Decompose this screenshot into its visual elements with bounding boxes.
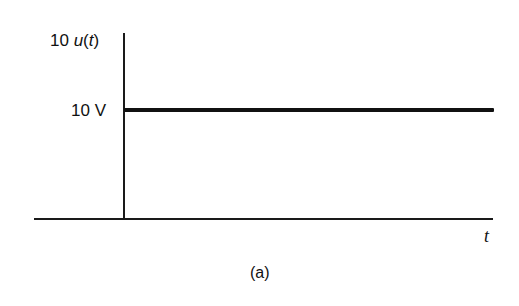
x-axis: [34, 218, 493, 220]
figure-caption: (a): [250, 264, 270, 282]
y-axis-label: 10 u(t): [50, 31, 99, 51]
x-axis-label: t: [484, 226, 489, 247]
y-axis: [123, 33, 125, 220]
y-axis-label-func: u: [74, 31, 83, 50]
y-axis-label-paren-close: ): [94, 31, 100, 50]
level-label: 10 V: [71, 101, 106, 121]
step-signal-line: [124, 108, 494, 112]
y-axis-label-prefix: 10: [50, 31, 74, 50]
